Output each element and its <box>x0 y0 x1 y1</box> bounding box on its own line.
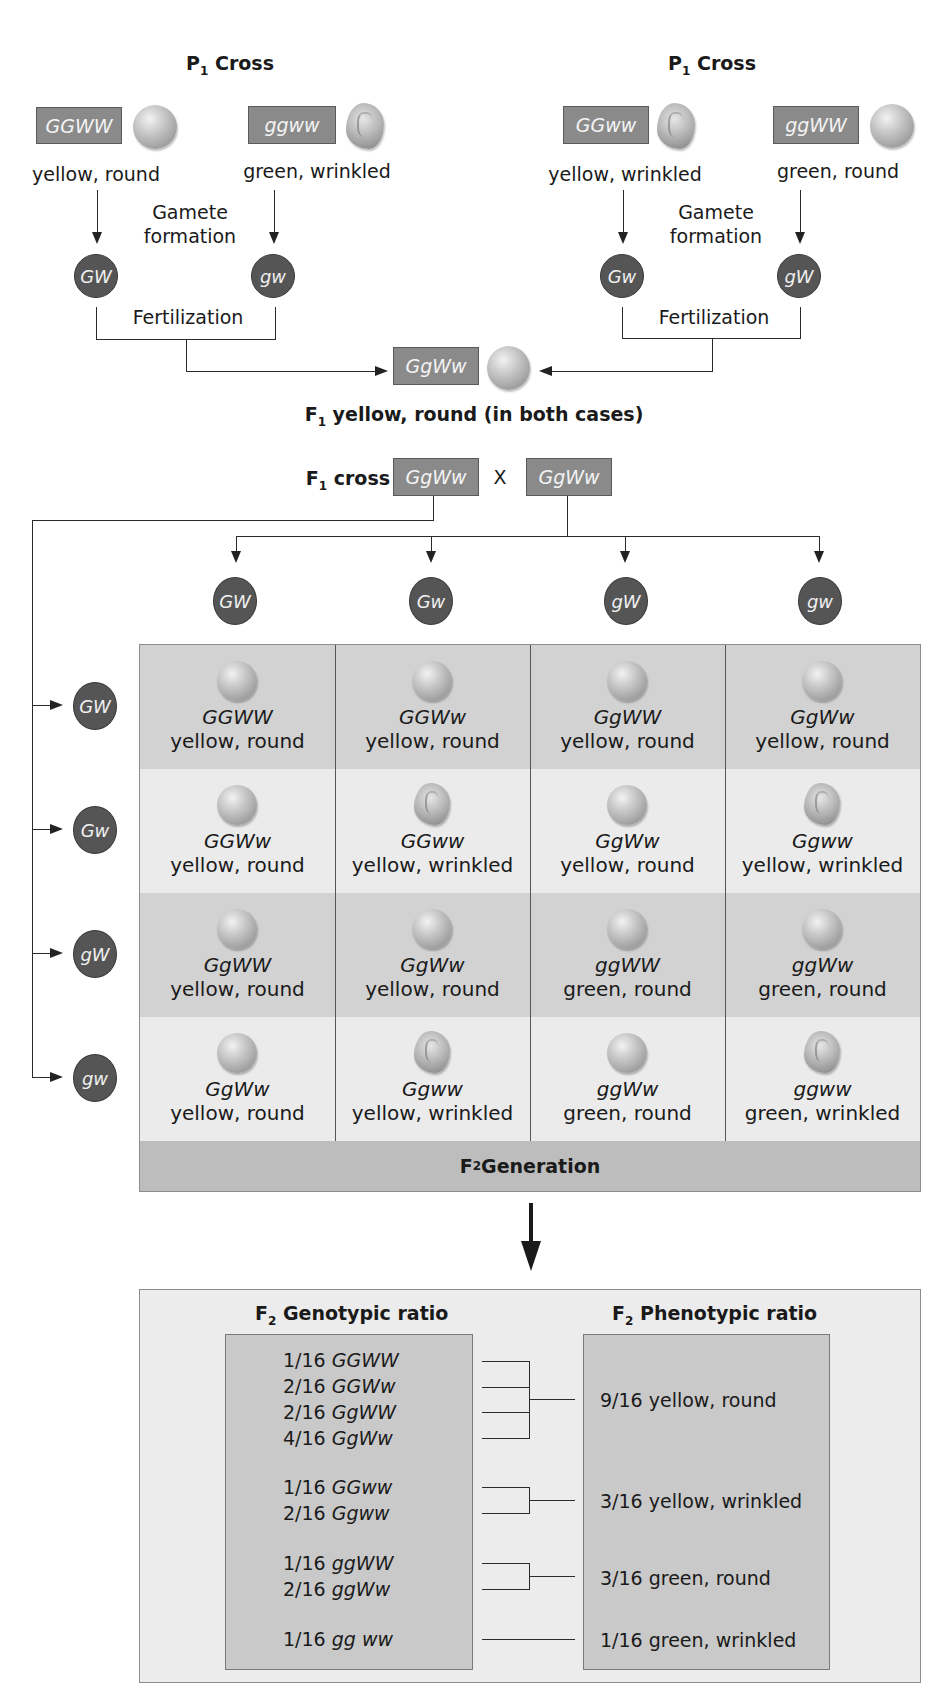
gamete-circle: gw <box>251 254 295 298</box>
punnett-cell: Ggwwyellow, wrinkled <box>335 1017 530 1141</box>
parent-genotype-box: GGww <box>563 106 649 144</box>
genotype-ratio-row: 1/16 ggWW <box>283 1552 393 1574</box>
genotype-ratio-row: 1/16 gg ww <box>283 1628 393 1650</box>
phenotype-ratio-row: 1/16 green, wrinkled <box>600 1629 796 1651</box>
p1-cross-left-title: P1 Cross <box>130 52 330 78</box>
connector-line <box>622 307 623 339</box>
cell-genotype: GGww <box>335 829 530 853</box>
column-divider <box>335 645 336 1141</box>
round-seed-icon <box>607 785 647 825</box>
bracket-line <box>482 1438 530 1439</box>
cell-genotype: GgWw <box>725 705 920 729</box>
f2-generation-label: F2 Generation <box>140 1141 920 1191</box>
punnett-cell: ggWwgreen, round <box>725 893 920 1017</box>
punnett-cell: ggwwgreen, wrinkled <box>725 1017 920 1141</box>
arrow-down-icon <box>231 551 241 563</box>
connector-line <box>32 829 52 830</box>
gamete-circle: gW <box>777 254 821 298</box>
connector-line <box>625 536 626 552</box>
bracket-line <box>482 1589 530 1590</box>
connector-line <box>712 338 713 371</box>
cell-phenotype: green, round <box>725 977 920 1001</box>
cell-genotype: ggww <box>725 1077 920 1101</box>
connector-line <box>431 536 432 552</box>
column-divider <box>725 645 726 1141</box>
cell-phenotype: green, round <box>530 1101 725 1125</box>
connector-line <box>236 536 237 552</box>
gamete-circle: Gw <box>600 254 644 298</box>
connector-line <box>433 496 434 521</box>
cell-phenotype: yellow, wrinkled <box>335 1101 530 1125</box>
phenotypic-ratio-box: 9/16 yellow, round 3/16 yellow, wrinkled… <box>583 1334 830 1670</box>
connector-line <box>32 520 434 521</box>
connector-line <box>274 190 275 233</box>
arrow-down-icon <box>620 551 630 563</box>
column-gamete: gW <box>604 577 648 625</box>
cell-genotype: GGWw <box>335 705 530 729</box>
connector-line <box>186 339 187 371</box>
genotype-ratio-row: 2/16 GgWW <box>283 1401 396 1423</box>
arrow-down-icon <box>795 232 805 244</box>
bracket-line <box>482 1639 575 1640</box>
phenotype-ratio-row: 3/16 yellow, wrinkled <box>600 1490 802 1512</box>
f1-cross-right-box: GgWw <box>526 458 612 496</box>
cell-genotype: GgWw <box>140 1077 335 1101</box>
punnett-cell: ggWWgreen, round <box>530 893 725 1017</box>
cell-genotype: Ggww <box>335 1077 530 1101</box>
connector-line <box>800 307 801 339</box>
cell-genotype: GgWW <box>140 953 335 977</box>
connector-line <box>32 520 33 1077</box>
punnett-cell: Ggwwyellow, wrinkled <box>725 769 920 893</box>
gamete-circle: GW <box>74 254 118 298</box>
row-gamete: gW <box>73 930 117 978</box>
phenotype-ratio-row: 3/16 green, round <box>600 1567 771 1589</box>
round-seed-icon <box>802 661 842 701</box>
cross-operator: X <box>487 466 513 488</box>
fertilization-label: Fertilization <box>118 306 258 328</box>
cell-genotype: GgWw <box>530 829 725 853</box>
connector-line <box>32 953 52 954</box>
wrinkled-seed-icon <box>804 1031 840 1073</box>
parent-genotype-box: ggww <box>248 106 336 144</box>
cell-phenotype: yellow, round <box>335 977 530 1001</box>
cell-genotype: ggWw <box>725 953 920 977</box>
punnett-cell: GgWWyellow, round <box>530 645 725 769</box>
genotypic-ratio-title: F2 Genotypic ratio <box>255 1302 448 1328</box>
column-gamete: gw <box>798 577 842 625</box>
cell-phenotype: yellow, round <box>140 977 335 1001</box>
connector-line <box>623 190 624 233</box>
round-seed-icon <box>607 909 647 949</box>
round-seed-icon <box>802 909 842 949</box>
arrow-left-icon <box>539 366 552 376</box>
wrinkled-seed-icon <box>346 103 384 149</box>
round-seed-icon <box>487 346 530 390</box>
ratio-panel: F2 Genotypic ratio F2 Phenotypic ratio 1… <box>139 1289 921 1683</box>
arrow-down-icon <box>92 232 102 244</box>
punnett-cell: GgWwyellow, round <box>335 893 530 1017</box>
cell-phenotype: yellow, round <box>140 853 335 877</box>
cell-phenotype: yellow, round <box>140 729 335 753</box>
connector-line <box>275 307 276 340</box>
row-gamete: GW <box>73 682 117 730</box>
cell-genotype: GgWw <box>335 953 530 977</box>
genotype-ratio-row: 1/16 GGWW <box>283 1349 399 1371</box>
gamete-formation-label: Gamete formation <box>140 200 240 248</box>
column-gamete: Gw <box>409 577 453 625</box>
genotypic-ratio-box: 1/16 GGWW 2/16 GGWw 2/16 GgWW 4/16 GgWw … <box>225 1334 473 1670</box>
round-seed-icon <box>412 909 452 949</box>
cell-phenotype: green, wrinkled <box>725 1101 920 1125</box>
bracket-line <box>482 1387 530 1388</box>
fertilization-label: Fertilization <box>644 306 784 328</box>
connector-line <box>32 705 52 706</box>
punnett-square: GGWWyellow, round GGWwyellow, round GgWW… <box>139 644 921 1192</box>
f1-cross-label: F1 cross <box>290 467 390 493</box>
punnett-cell: GgWwyellow, round <box>725 645 920 769</box>
punnett-cell: ggWwgreen, round <box>530 1017 725 1141</box>
parent-phenotype-label: green, wrinkled <box>232 160 402 182</box>
round-seed-icon <box>217 661 257 701</box>
genotype-ratio-row: 4/16 GgWw <box>283 1427 393 1449</box>
arrow-right-icon <box>50 824 63 834</box>
round-seed-icon <box>412 661 452 701</box>
arrow-right-icon <box>50 1072 63 1082</box>
cell-genotype: GGWw <box>140 829 335 853</box>
